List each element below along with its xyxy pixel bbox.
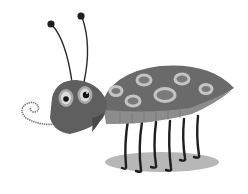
eye-right xyxy=(78,86,93,104)
bug-illustration xyxy=(0,0,248,194)
antenna-tip-right xyxy=(77,12,84,19)
antenna-tip-left xyxy=(47,20,54,27)
bug-head xyxy=(50,80,106,134)
eye-left xyxy=(59,89,74,107)
illustration-canvas xyxy=(0,0,248,194)
curly-tongue xyxy=(22,102,54,124)
antennae xyxy=(52,17,88,82)
